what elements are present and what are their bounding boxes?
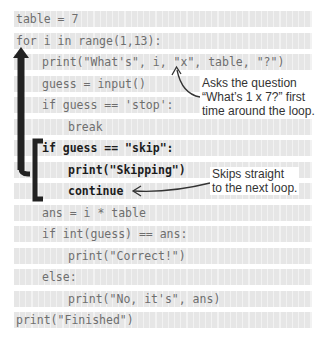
annotation-question: Asks the question “What’s 1 x 7?” first …: [200, 76, 317, 118]
annotation-line: Skips straight: [212, 167, 297, 181]
annotation-skip: Skips straight to the next loop.: [210, 167, 299, 195]
annotation-line: Asks the question: [202, 76, 315, 90]
annotation-line: “What’s 1 x 7?” first: [202, 90, 315, 104]
curved-arrow-to-x-icon: [172, 67, 200, 97]
loop-back-arrow-icon: [13, 47, 30, 174]
annotation-line: time around the loop.: [202, 104, 315, 118]
annotation-line: to the next loop.: [212, 181, 297, 195]
curved-arrow-to-continue-icon: [133, 183, 210, 196]
block-bracket-icon: [35, 141, 43, 199]
